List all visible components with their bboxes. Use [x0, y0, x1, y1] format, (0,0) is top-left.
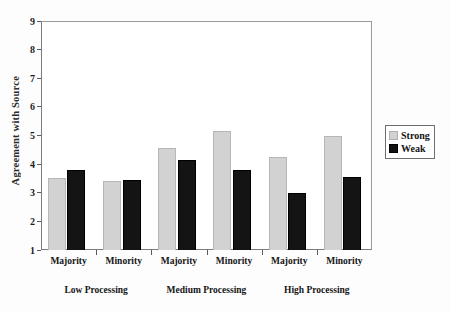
x-axis-tick-mark — [151, 250, 152, 255]
legend-item: Weak — [389, 142, 430, 155]
bar-strong — [269, 157, 287, 250]
legend: StrongWeak — [385, 125, 435, 159]
bar-weak — [343, 177, 361, 250]
legend-swatch-strong — [389, 131, 398, 140]
x-axis-category-label: Minority — [96, 256, 151, 266]
y-axis-tick: 5 — [30, 130, 41, 142]
y-axis-ticks: 123456789 — [0, 0, 41, 313]
y-axis-tick-label: 5 — [30, 130, 37, 141]
x-axis-category-label: Majority — [151, 256, 206, 266]
legend-swatch-weak — [389, 144, 398, 153]
y-axis-tick: 1 — [30, 244, 41, 256]
x-axis-category-label: Minority — [207, 256, 262, 266]
y-axis-tick-label: 2 — [30, 216, 37, 227]
y-axis-tick: 2 — [30, 215, 41, 227]
x-axis-tick-mark — [96, 250, 97, 255]
y-axis-tick-label: 6 — [30, 101, 37, 112]
y-axis-tick-label: 9 — [30, 16, 37, 27]
y-axis-tick: 8 — [30, 44, 41, 56]
bars-area — [41, 21, 372, 250]
y-axis-tick: 4 — [30, 158, 41, 170]
legend-label: Weak — [401, 143, 425, 154]
bar-weak — [233, 170, 251, 250]
x-axis-category-label: Majority — [262, 256, 317, 266]
bar-strong — [158, 148, 176, 250]
legend-label: Strong — [401, 130, 430, 141]
y-axis-tick: 9 — [30, 15, 41, 27]
y-axis-tick: 6 — [30, 101, 41, 113]
x-axis-category-label: Majority — [41, 256, 96, 266]
x-axis-category-labels: MajorityMinorityMajorityMinorityMajority… — [41, 256, 372, 272]
x-axis-group-label: Low Processing — [41, 285, 151, 295]
bar-strong — [324, 136, 342, 251]
bar-weak — [67, 170, 85, 250]
y-axis-tick: 7 — [30, 72, 41, 84]
x-axis-group-label: High Processing — [262, 285, 372, 295]
y-axis-tick-label: 8 — [30, 44, 37, 55]
bar-strong — [103, 181, 121, 250]
y-axis-tick-label: 1 — [30, 245, 37, 256]
y-axis-tick-label: 4 — [30, 159, 37, 170]
bar-strong — [48, 178, 66, 250]
y-axis-tick: 3 — [30, 187, 41, 199]
x-axis-category-label: Minority — [317, 256, 372, 266]
bar-strong — [213, 131, 231, 250]
bar-chart-figure: Agreement with Source 123456789 Majority… — [0, 0, 451, 313]
x-axis-tick-mark — [207, 250, 208, 255]
x-axis-group-labels: Low ProcessingMedium ProcessingHigh Proc… — [41, 285, 372, 301]
bar-weak — [123, 180, 141, 250]
x-axis-tick-mark — [262, 250, 263, 255]
y-axis-tick-label: 7 — [30, 73, 37, 84]
legend-item: Strong — [389, 129, 430, 142]
bar-weak — [178, 160, 196, 250]
bar-weak — [288, 193, 306, 250]
x-axis-group-label: Medium Processing — [151, 285, 261, 295]
x-axis-tick-mark — [317, 250, 318, 255]
y-axis-tick-label: 3 — [30, 187, 37, 198]
